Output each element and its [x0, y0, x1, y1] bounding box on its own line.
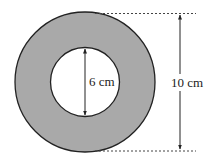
inner-diameter-label: 6 cm — [89, 74, 115, 89]
annulus-diagram: 6 cm 10 cm — [0, 0, 213, 166]
outer-diameter-label: 10 cm — [171, 75, 203, 90]
